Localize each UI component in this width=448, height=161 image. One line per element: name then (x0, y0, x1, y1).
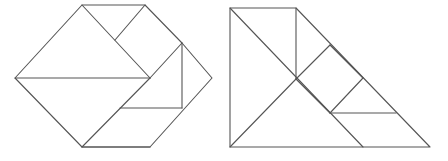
tangram-figure-svg (0, 0, 448, 161)
figure-container (0, 0, 448, 161)
canvas-background (0, 0, 448, 161)
